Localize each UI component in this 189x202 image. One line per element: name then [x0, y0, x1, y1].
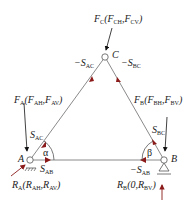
- arrow-ac-near-c-icon: [89, 76, 94, 82]
- pin-support-a: [25, 168, 36, 171]
- label-beta: β: [147, 148, 152, 158]
- label-ra: RA(RAH,RAV): [12, 180, 60, 191]
- label-fb: FB(FBH,FBV): [134, 95, 182, 106]
- joint-a: [27, 157, 33, 163]
- label-rb: RB(0,RBV): [117, 180, 156, 191]
- label-fc: FC(FCH,FCV): [94, 14, 142, 25]
- member-ac: [30, 57, 105, 160]
- roller-support-b: [157, 163, 171, 174]
- member-bc: [105, 57, 164, 160]
- label-s-ac: SAC: [30, 130, 43, 141]
- joint-b: [161, 157, 167, 163]
- label-s-ab: SAB: [40, 164, 53, 175]
- label-s-bc: SBC: [152, 125, 165, 136]
- label-s-bc-top: −SBC: [121, 58, 141, 69]
- label-node-b: B: [171, 154, 177, 164]
- load-fa-arrow: [24, 103, 27, 151]
- label-fa: FA(FAH,FAV): [14, 95, 62, 106]
- arrow-bc-near-b-icon: [152, 139, 157, 145]
- reaction-ra-arrow: [11, 165, 25, 176]
- label-alpha: α: [43, 148, 48, 158]
- load-fc-arrow: [106, 28, 112, 50]
- label-s-ac-top: −SAC: [74, 58, 94, 69]
- label-node-c: C: [112, 50, 119, 60]
- arrow-ab-near-b-icon: [140, 157, 146, 163]
- label-node-a: A: [18, 154, 24, 164]
- load-fb-arrow: [165, 117, 167, 151]
- label-s-ab-neg: −SAB: [130, 165, 150, 176]
- joint-c: [102, 54, 108, 60]
